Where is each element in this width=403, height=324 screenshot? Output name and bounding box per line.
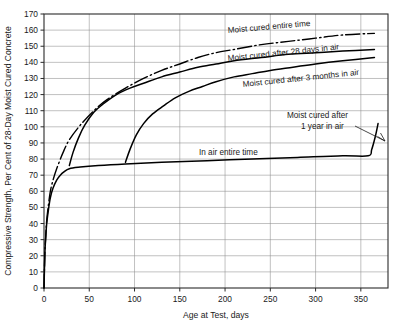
y-tick-label: 30 [29, 235, 39, 245]
y-tick-label: 140 [24, 57, 38, 67]
y-tick-label: 50 [29, 202, 39, 212]
y-axis-title: Compressive Strength, Per Cent of 28-Day… [3, 26, 13, 276]
y-tick-label: 120 [24, 90, 38, 100]
y-tick-label: 60 [29, 186, 39, 196]
y-tick-label: 170 [24, 9, 38, 19]
y-tick-label: 100 [24, 122, 38, 132]
x-tick-label: 350 [354, 294, 368, 304]
x-tick-label: 150 [173, 294, 187, 304]
x-tick-label: 0 [42, 294, 47, 304]
y-tick-label: 150 [24, 41, 38, 51]
compressive-strength-chart: 0102030405060708090100110120130140150160… [0, 0, 403, 324]
x-tick-label: 50 [85, 294, 95, 304]
annotation-moist-cured-after-1-year-line1: Moist cured after [287, 111, 348, 120]
y-tick-label: 160 [24, 25, 38, 35]
y-tick-label: 130 [24, 73, 38, 83]
x-tick-label: 250 [263, 294, 277, 304]
y-tick-label: 10 [29, 267, 39, 277]
y-tick-label: 70 [29, 170, 39, 180]
y-tick-label: 80 [29, 154, 39, 164]
x-tick-label: 200 [218, 294, 232, 304]
chart-container: 0102030405060708090100110120130140150160… [0, 0, 403, 324]
y-tick-label: 40 [29, 219, 39, 229]
x-axis-title: Age at Test, days [183, 310, 249, 320]
y-tick-label: 20 [29, 251, 39, 261]
chart-background [0, 0, 403, 324]
y-tick-label: 90 [29, 138, 39, 148]
annotation-in-air-entire-time: In air entire time [199, 148, 258, 157]
y-tick-label: 0 [33, 283, 38, 293]
y-tick-label: 110 [25, 106, 39, 116]
x-tick-label: 100 [128, 294, 142, 304]
x-tick-label: 300 [309, 294, 323, 304]
annotation-moist-cured-after-1-year-line2: 1 year in air [301, 122, 344, 131]
